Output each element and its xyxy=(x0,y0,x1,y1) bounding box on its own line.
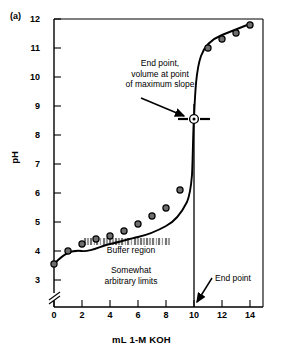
data-point xyxy=(219,36,225,42)
data-point xyxy=(233,30,239,36)
titration-curve xyxy=(54,24,250,264)
data-point xyxy=(135,221,141,227)
plot-area xyxy=(0,0,283,361)
annotation-arrow-lower xyxy=(197,278,212,302)
axis-frame xyxy=(54,19,263,307)
data-point xyxy=(93,236,99,242)
data-point xyxy=(149,213,155,219)
figure-panel: (a) pH mL 1-M KOH 12 11 10 9 8 7 6 5 4 3… xyxy=(0,0,283,361)
data-point xyxy=(79,241,85,247)
data-point xyxy=(107,233,113,239)
data-point xyxy=(247,22,253,28)
annotation-arrow-upper xyxy=(141,98,184,116)
data-point xyxy=(121,228,127,234)
data-point xyxy=(51,261,57,267)
data-point-markers xyxy=(51,22,253,267)
data-point xyxy=(205,45,211,51)
data-point xyxy=(177,187,183,193)
data-point xyxy=(163,205,169,211)
y-axis-ticks xyxy=(54,19,61,280)
x-axis-ticks xyxy=(54,300,250,307)
data-point xyxy=(65,248,71,254)
